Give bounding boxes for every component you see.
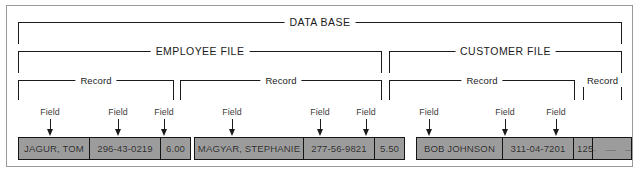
field-cell-customer1-name: BOB JOHNSON bbox=[416, 137, 503, 160]
field-callout-9: Field bbox=[533, 107, 579, 136]
field-callout-6: Field bbox=[343, 107, 389, 136]
bracket-record-2: Record bbox=[180, 80, 382, 100]
field-callout-4: Field bbox=[209, 107, 255, 136]
field-callout-5: Field bbox=[297, 107, 343, 136]
field-cell-customer2-placeholder: — — — bbox=[592, 137, 632, 160]
down-arrow-icon bbox=[161, 119, 168, 136]
field-cell-employee1-rate: 6.00 bbox=[160, 137, 191, 160]
field-cell-employee2-rate: 5.50 bbox=[374, 137, 405, 160]
bracket-employee-file: EMPLOYEE FILE bbox=[18, 51, 382, 73]
bracket-label-record-2: Record bbox=[260, 74, 301, 87]
down-arrow-icon bbox=[47, 119, 54, 136]
field-callout-label: Field bbox=[141, 107, 187, 117]
field-callout-label: Field bbox=[482, 107, 528, 117]
field-callout-label: Field bbox=[343, 107, 389, 117]
field-callout-3: Field bbox=[141, 107, 187, 136]
bracket-label-record-3: Record bbox=[461, 74, 502, 87]
field-callout-label: Field bbox=[297, 107, 343, 117]
down-arrow-icon bbox=[363, 119, 370, 136]
field-callout-7: Field bbox=[406, 107, 452, 136]
field-callout-8: Field bbox=[482, 107, 528, 136]
field-callout-label: Field bbox=[533, 107, 579, 117]
bracket-label-record-4: Record bbox=[582, 74, 623, 87]
field-callout-2: Field bbox=[95, 107, 141, 136]
field-cell-customer1-account: 311-04-7201 bbox=[502, 137, 574, 160]
bracket-label-customer-file: CUSTOMER FILE bbox=[455, 45, 556, 58]
field-cell-employee2-ssn: 277-56-9821 bbox=[303, 137, 375, 160]
field-callout-label: Field bbox=[406, 107, 452, 117]
field-callout-1: Field bbox=[27, 107, 73, 136]
down-arrow-icon bbox=[426, 119, 433, 136]
down-arrow-icon bbox=[229, 119, 236, 136]
bracket-customer-file: CUSTOMER FILE bbox=[389, 51, 622, 73]
field-cell-employee1-name: JAGUR, TOM bbox=[18, 137, 90, 160]
field-callout-label: Field bbox=[27, 107, 73, 117]
bracket-label-database: DATA BASE bbox=[285, 16, 356, 29]
down-arrow-icon bbox=[317, 119, 324, 136]
bracket-record-4: Record bbox=[583, 80, 622, 100]
bracket-record-3: Record bbox=[389, 80, 575, 100]
database-hierarchy-diagram: DATA BASE EMPLOYEE FILE CUSTOMER FILE Re… bbox=[0, 0, 640, 174]
bracket-database: DATA BASE bbox=[18, 22, 622, 44]
field-cell-employee1-ssn: 296-43-0219 bbox=[89, 137, 161, 160]
field-callout-label: Field bbox=[95, 107, 141, 117]
bracket-label-employee-file: EMPLOYEE FILE bbox=[151, 45, 250, 58]
bracket-label-record-1: Record bbox=[75, 74, 116, 87]
down-arrow-icon bbox=[553, 119, 560, 136]
field-cell-employee2-name: MAGYAR, STEPHANIE bbox=[194, 137, 304, 160]
down-arrow-icon bbox=[502, 119, 509, 136]
bracket-record-1: Record bbox=[18, 80, 174, 100]
down-arrow-icon bbox=[115, 119, 122, 136]
field-callout-label: Field bbox=[209, 107, 255, 117]
